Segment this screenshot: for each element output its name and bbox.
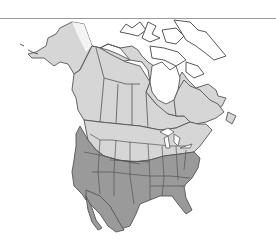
newfoundland [226, 112, 236, 124]
range-map [0, 0, 276, 246]
north-america-map [0, 0, 276, 246]
